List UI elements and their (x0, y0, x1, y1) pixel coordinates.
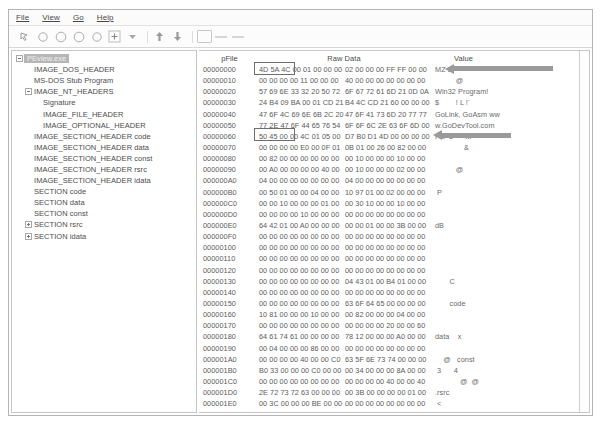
expand-icon[interactable] (24, 221, 33, 228)
hex-row[interactable]: 000001D02E 72 73 72 63 00 00 0000 3B 00 … (203, 387, 589, 398)
hex-row[interactable]: 0000008000 82 00 00 00 00 00 0000 10 00 … (203, 153, 589, 164)
menu-item-file[interactable]: File (16, 13, 29, 22)
chevron-down-icon[interactable] (125, 29, 140, 44)
tree-item-image-section-header-idata[interactable]: IMAGE_SECTION_HEADER idata (12, 175, 196, 186)
pointer-icon[interactable] (17, 29, 32, 44)
tree-item-signature[interactable]: Signature (12, 97, 196, 108)
hex-view-panel[interactable]: pFile Raw Data Value 000000004D 5A 4C 00… (199, 50, 590, 413)
chevron-down-icon-svg (127, 31, 138, 42)
hex-row-offset: 000000D0 (203, 210, 256, 219)
tree-item-section-idata[interactable]: SECTION idata (12, 231, 196, 242)
hex-row[interactable]: 0000005077 2E 47 6F 44 65 76 546F 6F 6C … (203, 120, 589, 131)
tree-item-image-section-header-const[interactable]: IMAGE_SECTION_HEADER const (12, 153, 196, 164)
toolbar-separator-1 (147, 31, 148, 43)
hex-row-bytes-first: 00 04 00 00 00 86 00 00 (256, 344, 345, 353)
hex-row[interactable]: 000001E000 3C 00 00 00 BE 00 0000 00 00 … (203, 398, 589, 409)
hex-row-value: & (435, 143, 589, 152)
hex-row[interactable]: 000001A000 00 00 00 40 00 00 C063 5F 6E … (203, 354, 589, 365)
hex-row[interactable]: 000000B000 50 01 00 00 04 00 0010 97 01 … (203, 187, 589, 198)
circle-three-icon[interactable] (71, 29, 86, 44)
tree-item-label: IMAGE_SECTION_HEADER code (33, 132, 152, 141)
hex-row[interactable]: 000001F000 00 00 00 40 00 00 402E 69 64 … (203, 409, 589, 413)
page-icon[interactable] (197, 29, 212, 44)
hex-row[interactable]: 0000011000 00 00 00 00 00 00 0000 00 00 … (203, 253, 589, 264)
hex-row[interactable]: 0000010000 00 00 00 00 00 00 0000 00 00 … (203, 242, 589, 253)
hex-row-bytes-second: 00 00 00 00 00 00 00 00 (345, 266, 435, 275)
hex-row-bytes-first: 00 00 00 00 00 00 00 00 (256, 377, 345, 386)
column-header-value: Value (432, 54, 554, 63)
hex-row[interactable]: 0000004047 6F 4C 69 6E 6B 2C 2047 6F 41 … (203, 109, 589, 120)
hex-row[interactable]: 000000A004 00 00 00 00 00 00 0004 00 00 … (203, 175, 589, 186)
circle-one-icon[interactable] (35, 29, 50, 44)
hex-row[interactable]: 0000006050 45 00 00 4C 01 05 00D7 B0 D1 … (203, 131, 589, 142)
hex-row[interactable]: 000001C000 00 00 00 00 00 00 0000 00 00 … (203, 376, 589, 387)
hex-row[interactable]: 0000012000 00 00 00 00 00 00 0000 00 00 … (203, 265, 589, 276)
hex-row[interactable]: 0000013000 00 00 00 00 00 00 0004 43 01 … (203, 276, 589, 287)
menu-item-go[interactable]: Go (73, 13, 84, 22)
hex-row[interactable]: 000000D000 00 00 00 10 00 00 0000 00 00 … (203, 209, 589, 220)
tree-item-section-const[interactable]: SECTION const (12, 208, 196, 219)
tree-item-peview-exe[interactable]: PEview.exe (12, 53, 196, 64)
structure-tree-list: PEview.exeIMAGE_DOS_HEADERMS-DOS Stub Pr… (12, 51, 196, 242)
tree-item-label: IMAGE_OPTIONAL_HEADER (42, 121, 147, 130)
hex-row[interactable]: 0000019000 04 00 00 00 86 00 0000 00 00 … (203, 343, 589, 354)
hex-row[interactable]: 0000017000 00 00 00 00 00 00 0000 00 00 … (203, 320, 589, 331)
hex-row-offset: 00000100 (203, 243, 256, 252)
tree-item-image-section-header-code[interactable]: IMAGE_SECTION_HEADER code (12, 131, 196, 142)
hex-row-offset: 000001B0 (203, 366, 256, 375)
up-arrow-icon[interactable] (152, 29, 167, 44)
hex-row[interactable]: 000000004D 5A 4C 00 01 00 00 0002 00 00 … (203, 64, 589, 75)
hex-row[interactable]: 0000014000 00 00 00 00 00 00 0000 00 00 … (203, 287, 589, 298)
hex-row-offset: 00000020 (203, 87, 256, 96)
hex-row[interactable]: 0000015000 00 00 00 00 00 00 0063 6F 64 … (203, 298, 589, 309)
tree-item-image-section-header-rsrc[interactable]: IMAGE_SECTION_HEADER rsrc (12, 164, 196, 175)
expand-icon[interactable] (24, 233, 33, 240)
hex-scroll-gutter[interactable] (579, 51, 589, 412)
hex-row[interactable]: 0000007000 00 00 00 E0 00 0F 010B 01 00 … (203, 142, 589, 153)
hex-row-offset: 00000150 (203, 299, 256, 308)
hex-row-bytes-first: 00 00 00 00 00 00 00 00 (256, 288, 345, 297)
hex-row[interactable]: 000001B0B0 33 00 00 00 C0 00 0000 34 00 … (203, 365, 589, 376)
tree-item-section-code[interactable]: SECTION code (12, 186, 196, 197)
hex-row[interactable]: 0000016010 81 00 00 00 10 00 0000 82 00 … (203, 309, 589, 320)
hex-row-bytes-second: 00 00 00 00 00 00 00 00 (345, 344, 435, 353)
hex-row-bytes-first: 00 00 00 00 40 00 00 C0 (256, 355, 345, 364)
collapse-icon[interactable] (15, 55, 24, 62)
hex-row[interactable]: 000000E064 42 01 00 A0 00 00 0000 00 01 … (203, 220, 589, 231)
hex-row-bytes-first: 00 00 00 00 00 00 00 00 (256, 299, 345, 308)
hex-row[interactable]: 000000C000 00 10 00 00 00 01 0000 30 10 … (203, 198, 589, 209)
tree-item-image-file-header[interactable]: IMAGE_FILE_HEADER (12, 108, 196, 119)
down-arrow-icon[interactable] (170, 29, 185, 44)
structure-tree-panel[interactable]: PEview.exeIMAGE_DOS_HEADERMS-DOS Stub Pr… (11, 50, 197, 413)
tree-item-section-data[interactable]: SECTION data (12, 197, 196, 208)
tree-item-label: MS-DOS Stub Program (33, 76, 114, 85)
tree-item-label: SECTION data (33, 198, 86, 207)
hex-row-value: < (435, 399, 589, 408)
collapse-icon[interactable] (24, 88, 33, 95)
hex-row[interactable]: 0000002057 69 6E 33 32 20 50 726F 67 72 … (203, 86, 589, 97)
hex-row[interactable]: 0000018064 61 74 61 00 00 00 0078 12 00 … (203, 331, 589, 342)
menu-item-help[interactable]: Help (97, 13, 114, 22)
down-arrow-icon-svg (172, 30, 183, 43)
tree-item-image-section-header-data[interactable]: IMAGE_SECTION_HEADER data (12, 142, 196, 153)
hex-row[interactable]: 0000001000 00 00 00 11 00 00 0040 00 00 … (203, 75, 589, 86)
tree-item-image-optional-header[interactable]: IMAGE_OPTIONAL_HEADER (12, 120, 196, 131)
circle-two-icon[interactable] (53, 29, 68, 44)
add-icon[interactable] (107, 29, 122, 44)
hex-row-bytes-second: 00 10 00 00 00 10 00 00 (345, 154, 435, 163)
tree-item-image-nt-headers[interactable]: IMAGE_NT_HEADERS (12, 86, 196, 97)
circle-four-icon[interactable] (89, 29, 104, 44)
menu-item-view[interactable]: View (42, 13, 60, 22)
tree-item-image-dos-header[interactable]: IMAGE_DOS_HEADER (12, 64, 196, 75)
hex-row-offset: 00000170 (203, 321, 256, 330)
hex-row[interactable]: 0000009000 A0 00 00 00 00 40 0000 10 00 … (203, 164, 589, 175)
hex-row-offset: 00000030 (203, 98, 256, 107)
hex-row-bytes-second: D7 B0 D1 4D 00 00 00 00 (345, 132, 435, 141)
hex-row[interactable]: 0000003024 B4 09 BA 00 01 CD 21B4 4C CD … (203, 97, 589, 108)
hex-row[interactable]: 000000F000 00 00 00 00 00 00 0000 00 00 … (203, 231, 589, 242)
tree-item-ms-dos-stub-program[interactable]: MS-DOS Stub Program (12, 75, 196, 86)
hex-row-bytes-first: 00 00 00 00 00 00 00 00 (256, 232, 345, 241)
tree-item-section-rsrc[interactable]: SECTION rsrc (12, 219, 196, 230)
hex-row-value: 3 4 (435, 366, 589, 375)
hex-row-bytes-first: 64 61 74 61 00 00 00 00 (256, 332, 345, 341)
